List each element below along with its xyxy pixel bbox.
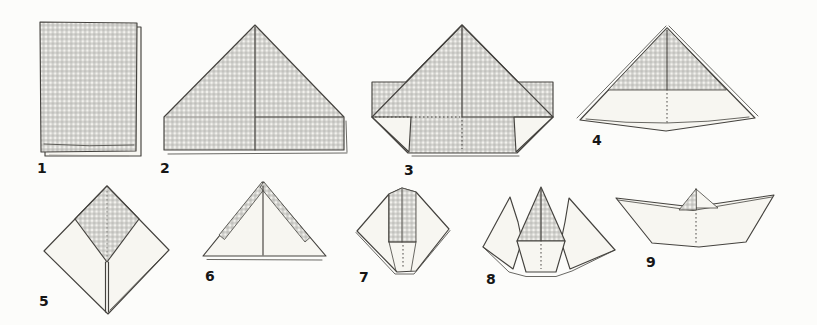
step-3-number: 3	[404, 163, 414, 177]
step-7-diagram	[356, 188, 450, 274]
step-9-number: 9	[646, 255, 656, 269]
right-corner-flap	[514, 117, 553, 152]
step-5-diagram	[44, 186, 169, 314]
step-7-number: 7	[359, 270, 369, 284]
folded-sheet	[40, 22, 137, 152]
triangle-with-strip	[164, 25, 344, 150]
step-1-number: 1	[37, 161, 47, 175]
step-4-number: 4	[592, 133, 602, 147]
step-2-diagram	[164, 25, 347, 154]
step-3-diagram	[372, 25, 553, 156]
step-9-diagram	[616, 189, 774, 247]
step-6-number: 6	[205, 269, 215, 283]
step-4-diagram	[577, 26, 758, 131]
origami-instructions-canvas: 1 2 3 4 5 6 7 8 9	[0, 0, 817, 325]
triangle-body	[203, 182, 326, 256]
step-5-number: 5	[39, 294, 49, 308]
step-8-diagram	[483, 187, 615, 277]
right-white-peak	[561, 198, 615, 269]
sail-checkered-half	[679, 189, 696, 210]
checkered-centre-strip	[389, 188, 416, 242]
step-2-number: 2	[160, 161, 170, 175]
left-white-peak	[483, 197, 522, 269]
left-corner-flap	[372, 117, 411, 152]
step-8-number: 8	[486, 272, 496, 286]
sail-white-half	[696, 189, 718, 208]
step-6-diagram	[203, 182, 326, 260]
step-1-diagram	[40, 22, 141, 156]
base-double-line	[207, 260, 322, 261]
